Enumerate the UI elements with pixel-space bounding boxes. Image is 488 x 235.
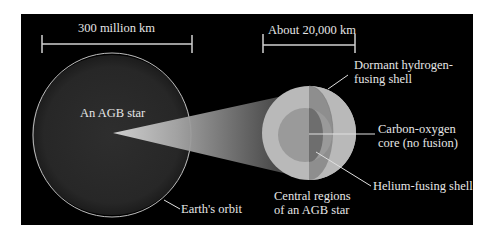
diagram-artwork <box>0 0 488 235</box>
leader-earths-orbit <box>164 200 180 209</box>
central-regions-label-1: Central regions <box>274 189 351 203</box>
helium-shell-label: Helium-fusing shell <box>373 179 473 193</box>
dormant-hydrogen-label-1: Dormant hydrogen- <box>354 58 453 72</box>
leader-dormant-hydrogen <box>328 75 348 89</box>
central-regions-label-2: of an AGB star <box>274 203 349 217</box>
agb-star-label: An AGB star <box>80 106 145 120</box>
scale-bar-300-million-km <box>42 35 192 53</box>
scale-label-20000-km: About 20,000 km <box>268 23 356 37</box>
earths-orbit-label: Earth's orbit <box>181 202 242 216</box>
scale-label-300-million-km: 300 million km <box>78 21 155 35</box>
carbon-oxygen-label-1: Carbon-oxygen <box>378 122 456 136</box>
cross-section-sphere <box>262 86 356 180</box>
carbon-oxygen-label-2: core (no fusion) <box>378 136 458 150</box>
dormant-hydrogen-label-2: fusing shell <box>354 72 412 86</box>
